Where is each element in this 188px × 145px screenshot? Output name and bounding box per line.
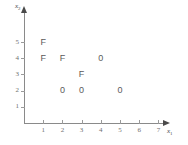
x-axis-line (24, 123, 164, 124)
y-tick-label: 1 (10, 103, 19, 110)
y-tick-mark (21, 107, 25, 108)
x-tick-mark (158, 120, 159, 124)
x-tick-label: 1 (38, 127, 48, 134)
y-axis-label: x2 (15, 3, 21, 11)
x-tick-label: 7 (153, 127, 163, 134)
y-axis-label-subscript: 2 (18, 6, 21, 11)
y-tick-mark (21, 74, 25, 75)
x-tick-mark (101, 120, 102, 124)
x-tick-label: 3 (77, 127, 87, 134)
data-point-marker: 0 (115, 86, 125, 95)
y-tick-mark (21, 91, 25, 92)
x-tick-label: 5 (115, 127, 125, 134)
x-tick-mark (43, 120, 44, 124)
y-tick-label: 4 (10, 55, 19, 62)
y-tick-mark (21, 58, 25, 59)
y-tick-label: 2 (10, 87, 19, 94)
x-tick-mark (62, 120, 63, 124)
y-tick-label: 5 (10, 39, 19, 46)
x-tick-label: 2 (57, 127, 67, 134)
y-tick-mark (21, 42, 25, 43)
x-tick-mark (82, 120, 83, 124)
x-axis-label-subscript: 1 (170, 131, 173, 136)
data-point-marker: 0 (77, 86, 87, 95)
x-tick-label: 6 (134, 127, 144, 134)
data-point-marker: 0 (96, 54, 106, 63)
x-axis-arrow-icon (163, 120, 170, 126)
y-axis-arrow-icon (21, 6, 27, 13)
data-point-marker: F (38, 38, 48, 47)
data-point-marker: F (77, 70, 87, 79)
data-point-marker: 0 (57, 86, 67, 95)
y-tick-label: 3 (10, 71, 19, 78)
x-tick-label: 4 (96, 127, 106, 134)
x-tick-mark (139, 120, 140, 124)
x-tick-mark (120, 120, 121, 124)
data-point-marker: F (57, 54, 67, 63)
data-point-marker: F (38, 54, 48, 63)
scatter-plot-figure: x1 x2 1234567 12345 FFF0F000 (0, 0, 188, 145)
x-axis-label: x1 (167, 128, 173, 136)
